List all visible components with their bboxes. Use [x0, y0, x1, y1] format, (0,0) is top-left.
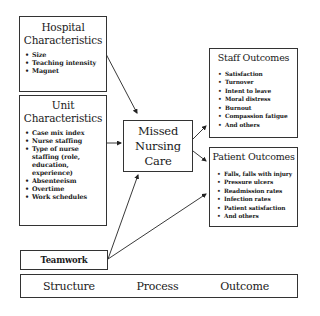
list-item: And others: [218, 121, 297, 130]
list-item: Type of nurse staffing (role, education,…: [25, 145, 86, 177]
list-item: Patient satisfaction: [217, 204, 297, 213]
list-item: Overtime: [25, 185, 99, 193]
list-item: Work schedules: [25, 193, 99, 201]
teamwork-title: Teamwork: [21, 251, 107, 269]
staff-outcomes-box: Staff Outcomes Satisfaction Turnover Int…: [209, 48, 298, 138]
title-line: Nursing: [124, 139, 192, 154]
list-item: Case mix index: [25, 129, 99, 137]
title-line: Unit: [20, 99, 106, 112]
list-item: Burnout: [218, 104, 297, 113]
list-item: Intent to leave: [218, 87, 297, 96]
unit-characteristics-title: Unit Characteristics: [20, 99, 106, 124]
list-item: Infection rates: [217, 195, 297, 204]
arrow-missed-care-to-patient-outcomes: [193, 151, 206, 161]
process-label: Process: [137, 280, 179, 293]
list-item: Pressure ulcers: [217, 178, 297, 187]
unit-characteristics-box: Unit Characteristics Case mix index Nurs…: [19, 95, 107, 226]
patient-outcomes-title: Patient Outcomes: [210, 151, 297, 164]
list-item: Moral distress: [218, 95, 297, 104]
title-line: Characteristics: [20, 34, 106, 47]
arrow-missed-care-to-staff-outcomes: [193, 126, 206, 139]
patient-outcomes-box: Patient Outcomes Falls, falls with injur…: [209, 147, 298, 227]
title-line: Missed: [124, 124, 192, 139]
missed-nursing-care-title: Missed Nursing Care: [124, 124, 192, 169]
patient-outcomes-list: Falls, falls with injury Pressure ulcers…: [217, 170, 297, 222]
hospital-characteristics-box: Hospital Characteristics Size Teaching i…: [19, 16, 107, 92]
list-item: Compassion fatigue: [218, 112, 297, 121]
hospital-characteristics-title: Hospital Characteristics: [20, 21, 106, 46]
title-line: Care: [124, 154, 192, 169]
list-item: Teaching intensity: [25, 59, 106, 67]
outcome-label: Outcome: [220, 280, 269, 293]
structure-process-outcome-bar: Structure Process Outcome: [20, 274, 298, 298]
title-line: Hospital: [20, 21, 106, 34]
list-item: Nurse staffing: [25, 137, 99, 145]
teamwork-box: Teamwork: [20, 250, 108, 270]
list-item: Turnover: [218, 78, 297, 87]
unit-characteristics-list: Case mix index Nurse staffing Type of nu…: [25, 129, 99, 201]
arrow-teamwork-to-missed-care: [108, 175, 138, 259]
list-item: Satisfaction: [218, 70, 297, 79]
arrow-hospital-to-missed-care: [106, 54, 137, 113]
list-item: Size: [25, 51, 106, 59]
title-line: Characteristics: [20, 112, 106, 125]
staff-outcomes-title: Staff Outcomes: [210, 52, 297, 65]
list-item: Magnet: [25, 67, 106, 75]
arrow-teamwork-to-patient-outcomes: [108, 194, 206, 259]
missed-nursing-care-box: Missed Nursing Care: [123, 120, 193, 172]
list-item: And others: [217, 212, 297, 221]
list-item: Falls, falls with injury: [217, 170, 297, 179]
hospital-characteristics-list: Size Teaching intensity Magnet: [25, 51, 106, 75]
list-item: Absenteeism: [25, 177, 99, 185]
staff-outcomes-list: Satisfaction Turnover Intent to leave Mo…: [218, 70, 297, 130]
list-item: Readmission rates: [217, 187, 297, 196]
structure-label: Structure: [43, 280, 95, 293]
